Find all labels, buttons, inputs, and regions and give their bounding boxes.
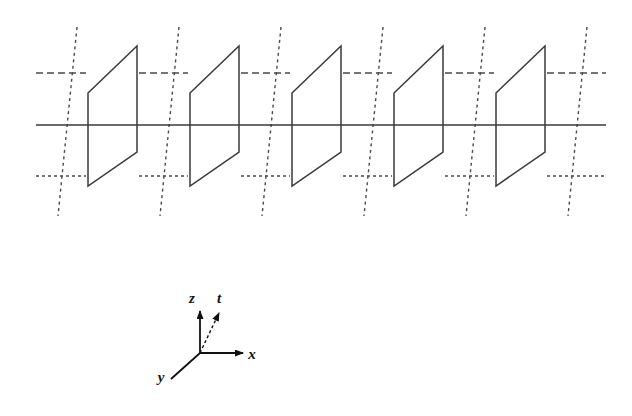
figure-background	[0, 0, 632, 416]
legend-axis-label-x: x	[247, 346, 256, 362]
diagram-figure: ztxy	[0, 0, 632, 416]
legend-axis-label-y: y	[156, 369, 165, 385]
legend-axis-label-z: z	[188, 290, 195, 306]
spacetime-hyperplanes-svg: ztxy	[0, 0, 632, 416]
